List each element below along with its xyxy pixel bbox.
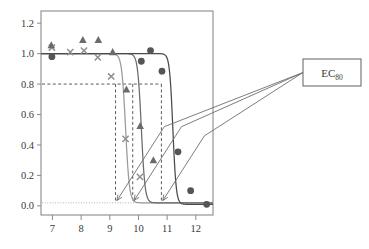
y-axis-tick-label: 1.0 (21, 48, 34, 59)
x-axis-tick-label: 12 (191, 223, 202, 234)
data-point-circle (175, 148, 182, 155)
x-axis-tick-label: 10 (133, 223, 144, 234)
ec80-label-subscript: 80 (335, 73, 343, 82)
y-axis-tick-label: 0.4 (21, 140, 35, 151)
x-axis-tick-label: 8 (79, 223, 84, 234)
y-axis-tick-label: 0.6 (21, 109, 34, 120)
y-axis-tick-label: 0.8 (21, 79, 34, 90)
x-axis-tick-label: 7 (50, 223, 55, 234)
y-axis-tick-label: 0.0 (21, 200, 34, 211)
x-axis-tick-label: 9 (107, 223, 112, 234)
y-axis-tick-label: 0.2 (21, 170, 34, 181)
data-point-circle (48, 53, 55, 60)
data-point-circle (138, 58, 145, 65)
figure-root: 0.00.20.40.60.81.01.2789101112EC80 (0, 0, 369, 249)
dose-response-chart: 0.00.20.40.60.81.01.2789101112EC80 (0, 0, 369, 249)
data-point-circle (147, 47, 154, 54)
data-point-circle (159, 68, 166, 75)
data-point-circle (187, 187, 194, 194)
ec80-label-main: EC (321, 67, 335, 79)
y-axis-tick-label: 1.2 (21, 18, 34, 29)
x-axis-tick-label: 11 (162, 223, 172, 234)
data-point-circle (203, 201, 210, 208)
ec80-leader-line (204, 73, 303, 136)
